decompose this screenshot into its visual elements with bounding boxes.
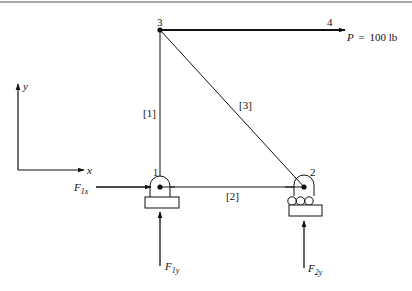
node-1-label: 1: [153, 167, 158, 178]
roller-wheel-2: [296, 197, 304, 205]
member-2-label: [2]: [226, 190, 239, 202]
roller-support-node-2: 2: [285, 166, 322, 216]
y-axis-label: y: [22, 80, 28, 92]
member-3-label: [3]: [239, 99, 252, 111]
applied-load: P = 100 lb: [160, 30, 398, 43]
coordinate-axes: y x: [18, 80, 92, 176]
member-3: [160, 30, 304, 187]
reaction-f1x: F1x: [73, 181, 151, 196]
node-3: 3: [157, 16, 163, 33]
roller-wheel-3: [305, 197, 313, 205]
pin-base: [145, 197, 179, 208]
node-3-dot: [157, 27, 162, 32]
f1x-label: F1x: [73, 181, 89, 196]
member-1-label: [1]: [143, 107, 156, 119]
node-1-dot: [157, 184, 162, 189]
f1y-label: F1y: [164, 260, 180, 275]
f2y-label: F2y: [307, 262, 323, 277]
node-2-dot: [301, 184, 306, 189]
node-4-label: 4: [327, 16, 333, 28]
truss-members: [1] [2] [3]: [143, 30, 304, 202]
node-3-label: 3: [157, 16, 163, 28]
reaction-f2y: F2y: [304, 221, 323, 277]
load-label: P = 100 lb: [346, 31, 398, 43]
roller-base: [289, 205, 322, 216]
node-2-label: 2: [310, 166, 316, 178]
truss-diagram: y x [1] [2] [3] P = 100 lb 3 4 1: [0, 0, 412, 291]
reaction-f1y: F1y: [160, 212, 180, 275]
x-axis-label: x: [86, 164, 92, 176]
roller-wheel-1: [288, 197, 296, 205]
